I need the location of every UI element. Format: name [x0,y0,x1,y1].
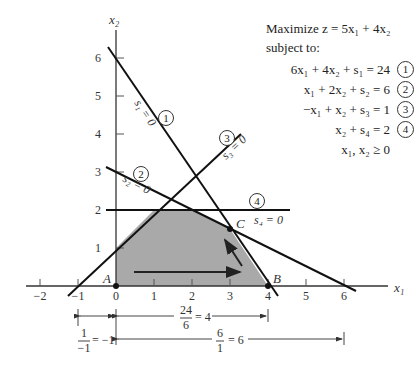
lp-figure: −2 −1 0 1 2 3 4 5 6 1 2 3 4 5 6 x₁ x₂ s₁… [0,0,418,365]
constraint-text: x₂ + s₄ = 2 [335,120,390,139]
constraint-text: x₁ + 2x₂ + s₂ = 6 [304,80,390,99]
x-tick-label: 2 [189,289,195,303]
circle-label-1: 1 [159,111,174,126]
ratio-3-val: = 6 [228,333,244,347]
constraint-number: 4 [397,121,414,138]
y-tick-label: 1 [95,241,101,255]
subject-to-text: subject to: [266,38,416,57]
x-tick-label: −2 [34,289,47,303]
point-c-label: C [236,216,245,231]
point-a [113,283,119,289]
x-tick-label: 4 [265,289,271,303]
y-tick-label: 5 [95,89,101,103]
constraint-number: 2 [397,81,414,98]
nonnegativity-text: x₁, x₂ ≥ 0 [341,140,390,159]
circle-label-4: 4 [250,194,265,209]
y-tick-label: 6 [95,51,101,65]
point-b [265,283,271,289]
svg-text:4: 4 [254,195,260,207]
y-ticks [116,58,124,248]
x-tick-label: 0 [113,289,119,303]
constraint-row: −x₁ + x₂ + s₃ = 1 3 [266,100,416,120]
s1-label: s₁ = 0 [132,97,160,129]
x-tick-label: 5 [303,289,309,303]
y-tick-label: 2 [95,203,101,217]
constraint-row: x₁ + 2x₂ + s₂ = 6 2 [266,80,416,100]
ratio-2-val: = 4 [195,310,211,324]
x2-axis-label: x₂ [108,12,120,27]
constraint-row: 6x₁ + 4x₂ + s₁ = 24 1 [266,60,416,80]
y-tick-label: 3 [95,165,101,179]
svg-text:3: 3 [224,132,230,144]
point-a-label: A [102,271,111,286]
svg-text:1: 1 [163,112,169,124]
ratio-2-num: 24 [180,303,192,317]
constraint-row: x₁, x₂ ≥ 0 [266,140,416,160]
x-tick-label: 3 [227,289,233,303]
point-b-label: B [273,271,281,286]
constraint-number: 3 [397,101,414,118]
ratio-1-num: 1 [81,326,87,340]
point-c [227,226,233,232]
constraint-text: 6x₁ + 4x₂ + s₁ = 24 [291,60,390,79]
x-tick-label: 1 [151,289,157,303]
circle-label-2: 2 [134,167,149,182]
x-tick-label: 6 [341,289,347,303]
circle-label-3: 3 [220,131,235,146]
ratio-1-val: = −1 [92,333,115,347]
constraint-number: 1 [397,61,414,78]
ratio-1-den: −1 [78,341,91,355]
ratio-3-num: 6 [217,326,223,340]
y-tick-label: 4 [95,127,101,141]
x1-axis-label: x₁ [393,280,404,295]
ratio-2-den: 6 [183,318,189,332]
objective-text: Maximize z = 5x₁ + 4x₂ [266,19,416,38]
ratio-3-den: 1 [217,341,223,355]
s4-label: s₄ = 0 [254,213,283,227]
constraint-text: −x₁ + x₂ + s₃ = 1 [303,100,390,119]
constraint-row: x₂ + s₄ = 2 4 [266,120,416,140]
svg-text:2: 2 [138,168,144,180]
constraint-panel: Maximize z = 5x₁ + 4x₂ subject to: 6x₁ +… [266,19,416,160]
